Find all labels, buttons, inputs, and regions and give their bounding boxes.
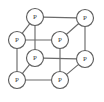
node-label: P	[58, 36, 62, 44]
graph-edge	[66, 64, 79, 75]
graph-node[interactable]: P	[27, 9, 44, 26]
edge-layer	[17, 17, 85, 80]
graph-edge	[22, 23, 30, 33]
graph-node[interactable]: P	[52, 72, 69, 89]
node-label: P	[15, 36, 19, 44]
graph-node[interactable]: P	[77, 51, 94, 68]
node-label: P	[33, 54, 37, 62]
node-label: P	[83, 55, 87, 63]
graph-edge	[22, 64, 30, 74]
node-label: P	[15, 76, 19, 84]
graph-node[interactable]: P	[52, 32, 69, 49]
graph-edge	[66, 23, 79, 34]
node-label: P	[83, 14, 87, 22]
graph-node[interactable]: P	[9, 32, 26, 49]
cube-graph-figure: PPPPPPPP	[0, 0, 104, 102]
node-layer: PPPPPPPP	[9, 9, 94, 89]
graph-edge	[43, 17, 77, 18]
graph-node[interactable]: P	[77, 10, 94, 27]
node-label: P	[33, 13, 37, 21]
diagram-canvas: PPPPPPPP	[0, 0, 104, 102]
graph-node[interactable]: P	[9, 72, 26, 89]
graph-node[interactable]: P	[27, 50, 44, 67]
node-label: P	[58, 76, 62, 84]
